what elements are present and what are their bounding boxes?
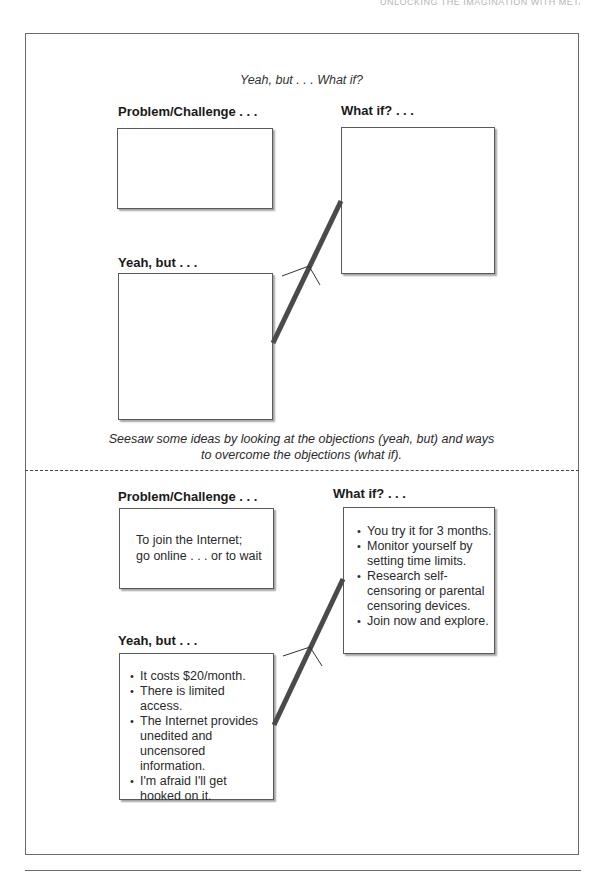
instruction-caption-line1: Seesaw some ideas by looking at the obje… — [0, 431, 603, 447]
what-if-box-blank[interactable] — [341, 127, 495, 274]
what-if-item: You try it for 3 months. — [357, 524, 492, 539]
example-problem-challenge-label: Problem/Challenge . . . — [118, 489, 257, 504]
problem-text-line1: To join the Internet; — [136, 532, 262, 548]
example-what-if-box: You try it for 3 months. Monitor yoursel… — [343, 507, 495, 654]
yeah-but-box-blank[interactable] — [118, 273, 273, 420]
yeah-but-item: I'm afraid I'll get hooked on it. — [130, 774, 270, 804]
instruction-caption-line2: to overcome the objections (what if). — [0, 447, 603, 463]
problem-challenge-label: Problem/Challenge . . . — [118, 104, 257, 119]
example-yeah-but-box: It costs $20/month. There is limited acc… — [119, 653, 274, 800]
what-if-item: Research self-censoring or parental cens… — [357, 569, 492, 614]
problem-challenge-box-blank[interactable] — [117, 128, 273, 209]
yeah-but-list: It costs $20/month. There is limited acc… — [130, 669, 270, 804]
section-divider — [25, 470, 579, 471]
what-if-item: Monitor yourself by setting time limits. — [357, 539, 492, 569]
running-head: UNLOCKING THE IMAGINATION WITH METAPHOR — [380, 0, 580, 6]
yeah-but-label: Yeah, but . . . — [118, 255, 197, 270]
yeah-but-item: The Internet provides unedited and uncen… — [130, 714, 270, 774]
example-problem-challenge-box: To join the Internet; go online . . . or… — [119, 508, 274, 589]
yeah-but-item: There is limited access. — [130, 684, 270, 714]
page-bottom-rule — [25, 870, 581, 871]
example-yeah-but-label: Yeah, but . . . — [118, 633, 197, 648]
what-if-list: You try it for 3 months. Monitor yoursel… — [357, 524, 492, 629]
yeah-but-item: It costs $20/month. — [130, 669, 270, 684]
worksheet-title: Yeah, but . . . What if? — [0, 73, 603, 87]
what-if-label: What if? . . . — [341, 103, 414, 118]
problem-text-line2: go online . . . or to wait — [136, 548, 262, 564]
what-if-item: Join now and explore. — [357, 614, 492, 629]
example-what-if-label: What if? . . . — [333, 486, 406, 501]
